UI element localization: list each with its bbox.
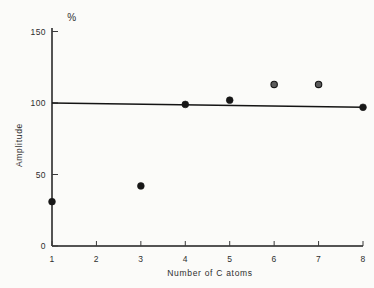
data-point xyxy=(271,81,277,87)
x-tick-label: 5 xyxy=(227,254,232,264)
data-point xyxy=(49,198,56,205)
x-axis-title: Number of C atoms xyxy=(167,268,253,278)
data-point xyxy=(226,97,233,104)
y-tick-label: 150 xyxy=(31,27,46,37)
x-tick-label: 7 xyxy=(316,254,321,264)
plot-background xyxy=(0,0,374,288)
chart-figure: % 050100150 12345678 Amplitude Number of… xyxy=(0,0,374,288)
y-axis-title: Amplitude xyxy=(14,123,24,167)
y-axis-unit-label: % xyxy=(67,12,76,23)
x-tick-label: 3 xyxy=(138,254,143,264)
data-point xyxy=(182,101,189,108)
x-tick-label: 2 xyxy=(94,254,99,264)
x-tick-label: 1 xyxy=(49,254,54,264)
scatter-plot: % 050100150 12345678 Amplitude Number of… xyxy=(0,0,374,288)
x-tick-label: 6 xyxy=(272,254,277,264)
x-tick-label: 4 xyxy=(183,254,188,264)
data-point xyxy=(315,81,321,87)
y-tick-label: 0 xyxy=(41,241,46,251)
data-point xyxy=(137,183,144,190)
data-point xyxy=(360,104,367,111)
y-tick-label: 50 xyxy=(36,170,46,180)
y-tick-label: 100 xyxy=(31,98,46,108)
x-tick-label: 8 xyxy=(360,254,365,264)
